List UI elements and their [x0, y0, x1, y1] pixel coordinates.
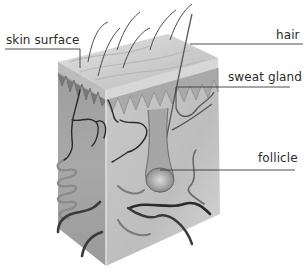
label-skin-surface: skin surface	[6, 33, 80, 47]
skin-cross-section-diagram: skin surface hair sweat gland follicle	[0, 0, 306, 277]
label-sweat-gland: sweat gland	[228, 70, 302, 84]
label-hair: hair	[276, 28, 300, 42]
label-follicle: follicle	[258, 151, 298, 165]
